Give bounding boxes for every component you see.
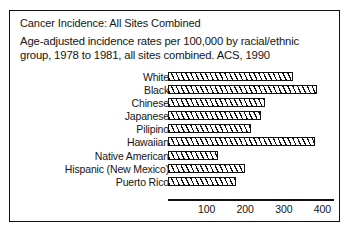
bar xyxy=(168,164,245,173)
bar-row: Black xyxy=(10,84,341,97)
x-axis: 100200300400 xyxy=(10,199,341,221)
bar xyxy=(168,98,265,107)
bar-row: Hispanic (New Mexico) xyxy=(10,163,341,176)
category-label: Hispanic (New Mexico) xyxy=(65,163,169,176)
category-label: Chinese xyxy=(132,97,169,110)
chart-subtitle: Age-adjusted incidence rates per 100,000… xyxy=(20,34,332,62)
chart-figure: Cancer Incidence: All Sites Combined Age… xyxy=(0,0,349,232)
bar xyxy=(168,111,261,120)
bar-row: Hawaiian xyxy=(10,136,341,149)
bar xyxy=(168,124,251,133)
x-tick-label: 200 xyxy=(237,203,254,215)
x-tick-label: 300 xyxy=(275,203,292,215)
category-label: Puerto Rico xyxy=(116,176,169,189)
bar xyxy=(168,177,236,186)
x-tick-label: 400 xyxy=(314,203,331,215)
category-label: Pilipino xyxy=(136,123,169,136)
bar xyxy=(168,72,293,81)
bar xyxy=(168,85,317,94)
bar-row: Puerto Rico xyxy=(10,176,341,189)
category-label: Hawaiian xyxy=(127,136,169,149)
category-label: Native American xyxy=(95,150,169,163)
category-label: White xyxy=(143,71,169,84)
bar-row: Chinese xyxy=(10,97,341,110)
bar xyxy=(168,137,315,146)
category-label: Black xyxy=(144,84,169,97)
x-axis-line xyxy=(168,199,334,201)
figure-frame: Cancer Incidence: All Sites Combined Age… xyxy=(9,10,340,222)
x-tick-label: 100 xyxy=(198,203,215,215)
page-title: Cancer Incidence: All Sites Combined xyxy=(20,17,200,29)
bar-row: Pilipino xyxy=(10,123,341,136)
bar-row: Japanese xyxy=(10,110,341,123)
bar-rows: WhiteBlackChineseJapanesePilipinoHawaiia… xyxy=(10,71,341,189)
bar-row: White xyxy=(10,71,341,84)
plot-area: WhiteBlackChineseJapanesePilipinoHawaiia… xyxy=(10,71,341,221)
bar xyxy=(168,151,218,160)
bar-row: Native American xyxy=(10,150,341,163)
category-label: Japanese xyxy=(125,110,169,123)
